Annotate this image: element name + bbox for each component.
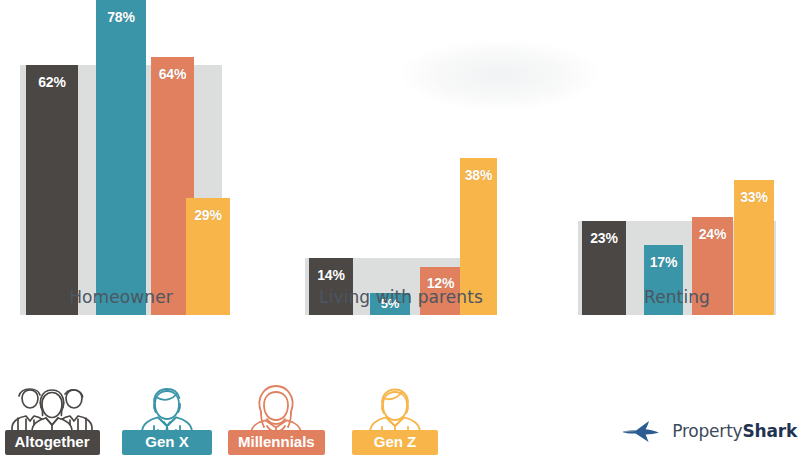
bar-value-label: 62%: [38, 74, 65, 315]
chart-canvas: 62% 78% 64% 29% Homeowner 14%: [0, 0, 807, 457]
legend-label-altogether: Altogether: [5, 430, 100, 455]
shark-logo-icon: [621, 419, 667, 443]
group-label-living-with-parents: Living with parents: [265, 287, 537, 307]
legend-item-genz[interactable]: Gen Z: [352, 382, 438, 455]
group-label-renting: Renting: [538, 287, 807, 307]
bar-value-label: 78%: [107, 9, 134, 315]
bar-homeowner-altogether[interactable]: 62%: [26, 65, 78, 315]
chart-legend: Altogether: [0, 372, 807, 457]
group-bars: 14% 5% 12% 38%: [305, 0, 497, 315]
bar-group-homeowner: 62% 78% 64% 29% Homeowner: [20, 0, 222, 315]
propertyshark-logo[interactable]: PropertyShark: [621, 419, 797, 443]
brand-name: PropertyShark: [672, 421, 797, 441]
legend-item-genx[interactable]: Gen X: [122, 382, 212, 455]
legend-label-genx: Gen X: [122, 430, 212, 455]
legend-item-millennials[interactable]: Millennials: [228, 382, 325, 455]
legend-label-genz: Gen Z: [352, 430, 438, 455]
legend-label-millennials: Millennials: [228, 430, 325, 455]
bar-group-renting: 23% 17% 24% 33% Renting: [578, 0, 776, 315]
brand-name-light: Property: [672, 421, 742, 441]
bar-value-label: 64%: [159, 66, 186, 315]
group-bars: 23% 17% 24% 33%: [578, 0, 776, 315]
brand-name-bold: Shark: [742, 421, 797, 441]
group-label-homeowner: Homeowner: [0, 287, 262, 307]
bar-group-living-with-parents: 14% 5% 12% 38% Living with parents: [305, 0, 497, 315]
group-bars: 62% 78% 64% 29%: [20, 0, 222, 315]
legend-item-altogether[interactable]: Altogether: [4, 382, 100, 455]
bar-chart-plot: 62% 78% 64% 29% Homeowner 14%: [0, 0, 807, 360]
bar-homeowner-genx[interactable]: 78%: [96, 0, 146, 315]
